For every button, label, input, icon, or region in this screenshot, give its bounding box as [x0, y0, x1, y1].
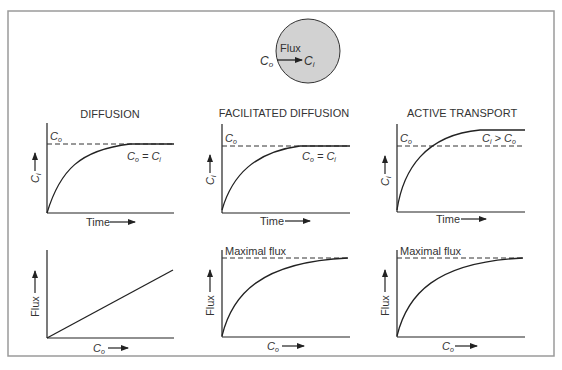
cell-diagram: Co Flux Ci [260, 19, 340, 83]
panel-title: ACTIVE TRANSPORT [407, 107, 518, 119]
chart-facilitated-flux: Maximal flux Co Flux [204, 245, 350, 353]
svg-text:Ci: Ci [204, 175, 217, 185]
svg-text:Ci: Ci [29, 173, 42, 183]
linear-flux-line [47, 270, 173, 338]
chart-facilitated-time: Co Co = Ci Time Ci [204, 124, 350, 227]
svg-text:Co: Co [225, 132, 237, 145]
chart-diffusion-time: Co Co = Ci Time Ci [29, 123, 174, 228]
outside-conc-label: Co [260, 54, 274, 69]
svg-text:Co: Co [50, 130, 62, 143]
svg-text:Co: Co [442, 340, 454, 353]
panel-title: FACILITATED DIFFUSION [219, 107, 349, 119]
svg-text:Ci > Co: Ci > Co [482, 132, 516, 145]
panel-title: DIFFUSION [80, 108, 139, 120]
svg-text:Ci: Ci [379, 176, 392, 186]
svg-text:Co = Ci: Co = Ci [302, 150, 336, 163]
panel-diffusion: DIFFUSION Co Co = Ci Time Ci Co Flux [29, 108, 174, 355]
svg-text:Time: Time [86, 216, 110, 228]
svg-text:Maximal flux: Maximal flux [400, 245, 462, 257]
saturation-curve [397, 258, 523, 336]
svg-text:Co: Co [267, 340, 279, 353]
svg-text:Flux: Flux [29, 296, 41, 317]
svg-text:Flux: Flux [204, 295, 216, 316]
panel-active-transport: ACTIVE TRANSPORT Co Ci > Co Time Ci Maxi… [379, 107, 525, 353]
chart-active-flux: Maximal flux Co Flux [379, 245, 525, 353]
svg-text:Time: Time [260, 215, 284, 227]
svg-text:Flux: Flux [379, 295, 391, 316]
svg-text:Co: Co [93, 342, 105, 355]
chart-active-time: Co Ci > Co Time Ci [379, 124, 525, 225]
svg-text:Maximal flux: Maximal flux [225, 245, 287, 257]
saturation-curve [222, 258, 348, 336]
svg-text:Time: Time [436, 213, 460, 225]
panel-facilitated-diffusion: FACILITATED DIFFUSION Co Co = Ci Time Ci… [204, 107, 350, 353]
flux-label: Flux [280, 42, 301, 54]
chart-diffusion-flux: Co Flux [29, 250, 174, 355]
transport-figure: Co Flux Ci DIFFUSION Co Co = Ci Time Ci [0, 0, 562, 370]
svg-text:Co: Co [400, 132, 412, 145]
svg-text:Co = Ci: Co = Ci [127, 150, 161, 163]
